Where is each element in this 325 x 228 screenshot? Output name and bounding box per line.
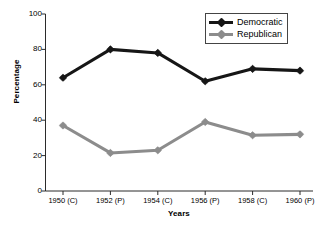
legend-item-republican: Republican bbox=[209, 28, 283, 40]
legend-swatch-republican bbox=[209, 29, 233, 39]
legend: Democratic Republican bbox=[205, 13, 288, 44]
legend-swatch-democratic bbox=[209, 17, 233, 27]
series-line-republican bbox=[63, 122, 300, 153]
series-line-democratic bbox=[63, 49, 300, 81]
line-chart: Percentage 020406080100 1950 (C)1952 (P)… bbox=[0, 0, 325, 228]
data-point-republican-4 bbox=[249, 131, 257, 139]
data-point-democratic-5 bbox=[296, 67, 304, 75]
data-point-republican-5 bbox=[296, 131, 304, 139]
legend-label-republican: Republican bbox=[237, 29, 282, 39]
data-point-democratic-4 bbox=[249, 65, 257, 73]
legend-label-democratic: Democratic bbox=[237, 17, 283, 27]
legend-item-democratic: Democratic bbox=[209, 16, 283, 28]
